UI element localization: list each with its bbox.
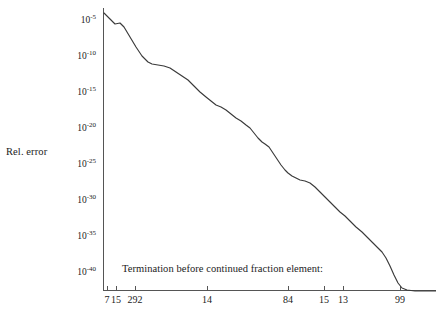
axis-lines — [103, 8, 436, 291]
x-tick-label: 15 — [111, 295, 121, 305]
x-tick-label: 99 — [395, 295, 405, 305]
data-series-line — [104, 13, 436, 291]
x-tick-label: 15 — [319, 295, 329, 305]
x-tick-label: 7 — [105, 295, 110, 305]
x-tick-mark-group — [108, 286, 401, 291]
x-tick-label: 14 — [202, 295, 212, 305]
x-tick-label: 292 — [128, 295, 143, 305]
figure-container: Rel. error 10-510-1010-1510-2010-2510-30… — [0, 0, 436, 316]
x-tick-label: 13 — [338, 295, 348, 305]
x-tick-label: 84 — [283, 295, 293, 305]
x-axis-caption: Termination before continued fraction el… — [122, 263, 323, 274]
